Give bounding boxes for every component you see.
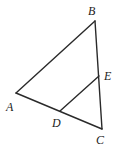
- label-point-c: C: [96, 133, 105, 144]
- label-point-a: A: [5, 100, 14, 114]
- label-point-d: D: [51, 116, 61, 130]
- segment-ab: [16, 21, 95, 93]
- segment-bc: [95, 21, 102, 129]
- triangle-diagram: B A E D C: [0, 0, 119, 144]
- label-point-e: E: [103, 69, 112, 83]
- segment-de: [60, 76, 99, 111]
- label-point-b: B: [88, 4, 96, 18]
